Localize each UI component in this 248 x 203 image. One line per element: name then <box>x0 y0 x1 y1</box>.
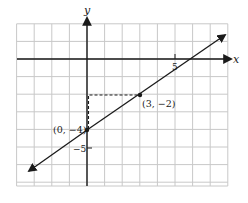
x-axis-label: x <box>233 53 240 66</box>
point-3-neg2 <box>138 93 142 97</box>
tick-label-x5: 5 <box>172 62 178 72</box>
grid <box>17 24 228 186</box>
point-label-0-neg4: (0, −4) <box>53 124 87 135</box>
tick-label-yneg5: −5 <box>73 144 87 154</box>
coordinate-graph: y x 5 −5 (0, −4) (3, −2) <box>0 0 248 203</box>
point-label-3-neg2: (3, −2) <box>142 98 176 109</box>
graphed-line <box>87 35 225 130</box>
y-axis-label: y <box>83 4 91 17</box>
